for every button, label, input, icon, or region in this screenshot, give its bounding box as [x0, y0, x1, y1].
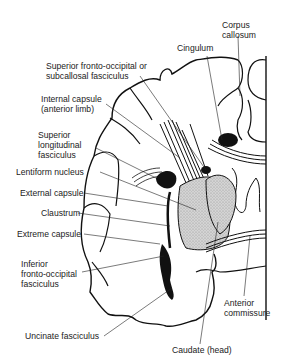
sulcus-lines — [84, 88, 152, 286]
label-extreme-capsule: Extreme capsule — [17, 229, 81, 239]
label-inferior-fronto-occipital: Inferior fronto-occipital fasciculus — [21, 259, 77, 289]
label-line: longitudinal — [38, 140, 81, 150]
label-superior-longitudinal: Superior longitudinal fasciculus — [38, 130, 81, 160]
label-line: Extreme capsule — [17, 229, 81, 239]
label-line: fasciculus — [21, 279, 77, 289]
label-lentiform-nucleus: Lentiform nucleus — [16, 167, 84, 177]
corpus-callosum-fibres — [208, 140, 266, 164]
label-external-capsule: External capsule — [20, 188, 84, 198]
label-caudate-head: Caudate (head) — [172, 345, 232, 355]
brain-coronal-diagram: Corpus callosum Cingulum Superior fronto… — [0, 0, 285, 361]
lateral-ventricle — [232, 168, 260, 213]
label-line: Cingulum — [177, 43, 213, 53]
base-contour — [196, 266, 266, 272]
label-line: Anterior — [224, 298, 270, 308]
label-cingulum: Cingulum — [177, 43, 213, 53]
label-line: Caudate (head) — [172, 345, 232, 355]
label-line: Corpus — [222, 20, 256, 30]
medial-gyri — [218, 60, 266, 142]
label-line: commissure — [224, 308, 270, 318]
label-claustrum: Claustrum — [41, 208, 80, 218]
label-internal-capsule: Internal capsule (anterior limb) — [41, 94, 102, 114]
label-line: Inferior — [21, 259, 77, 269]
label-line: Internal capsule — [41, 94, 102, 104]
label-line: subcallosal fasciculus — [46, 71, 147, 81]
label-line: Lentiform nucleus — [16, 167, 84, 177]
label-line: Superior — [38, 130, 81, 140]
label-line: Claustrum — [41, 208, 80, 218]
label-line: (anterior limb) — [41, 104, 102, 114]
label-line: Uncinate fasciculus — [25, 331, 99, 341]
label-uncinate-fasciculus: Uncinate fasciculus — [25, 331, 99, 341]
label-anterior-commissure: Anterior commissure — [224, 298, 270, 318]
label-line: External capsule — [20, 188, 84, 198]
label-line: fronto-occipital — [21, 269, 77, 279]
claustrum — [168, 192, 170, 248]
label-line: Superior fronto-occipital or — [46, 61, 147, 71]
slf-mass — [156, 171, 176, 188]
label-line: callosum — [222, 30, 256, 40]
label-superior-fronto-occipital: Superior fronto-occipital or subcallosal… — [46, 61, 147, 81]
label-corpus-callosum: Corpus callosum — [222, 20, 256, 40]
label-line: fasciculus — [38, 150, 81, 160]
hemisphere-outline — [81, 56, 266, 326]
